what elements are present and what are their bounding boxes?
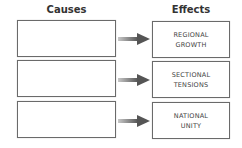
cause-box-2[interactable] (17, 60, 116, 97)
causes-header: Causes (17, 4, 116, 15)
effect-label-line2: TENSIONS (172, 80, 211, 90)
effect-label-line2: GROWTH (173, 40, 208, 50)
arrow-icon (118, 74, 150, 86)
effect-box-regional-growth: REGIONALGROWTH (152, 21, 230, 58)
effect-box-sectional-tensions: SECTIONALTENSIONS (152, 61, 230, 98)
arrow-icon (118, 115, 150, 127)
cause-box-3[interactable] (17, 101, 116, 138)
effect-label-line1: REGIONAL (173, 30, 208, 40)
effect-label-line2: UNITY (174, 121, 208, 131)
cause-box-1[interactable] (17, 20, 116, 57)
effects-header: Effects (152, 4, 230, 15)
effect-label-line1: SECTIONAL (172, 70, 211, 80)
arrow-icon (118, 33, 150, 45)
effect-box-national-unity: NATIONALUNITY (152, 102, 230, 139)
effect-label-line1: NATIONAL (174, 111, 208, 121)
